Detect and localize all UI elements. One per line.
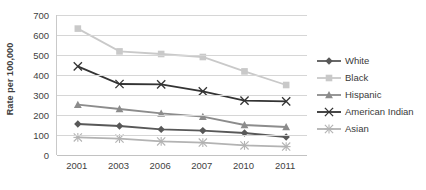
x-tick-label: 2007 <box>191 160 212 171</box>
data-point-asterisk <box>325 124 334 133</box>
legend-item-white[interactable]: White <box>316 52 422 69</box>
data-point-x <box>74 62 82 70</box>
gridline <box>57 75 307 76</box>
data-point-square <box>158 51 165 58</box>
data-point-asterisk <box>198 138 207 147</box>
data-point-square <box>116 48 123 55</box>
data-point-diamond <box>157 126 164 133</box>
x-tick-label: 2011 <box>275 160 295 171</box>
y-axis-title: Rate per 100,000 <box>2 0 18 158</box>
y-tick-label: 300 <box>33 90 49 101</box>
y-axis-tick-labels: 7006005004003002001000 <box>18 0 52 160</box>
series-american-indian <box>74 62 291 105</box>
series-line <box>78 29 286 85</box>
y-tick-label: 200 <box>33 110 49 121</box>
data-point-asterisk <box>240 141 249 150</box>
legend-label: Asian <box>345 124 369 134</box>
plot-area <box>56 15 307 155</box>
x-tick-label: 2001 <box>66 160 87 171</box>
legend-marker-diamond-icon <box>316 54 342 68</box>
x-axis-tick-labels: 200120032006200720102011 <box>56 160 306 176</box>
legend-marker-square-icon <box>316 71 342 85</box>
data-point-square <box>75 25 82 32</box>
legend-item-black[interactable]: Black <box>316 69 422 86</box>
y-tick-label: 0 <box>44 150 49 161</box>
series-layer <box>57 15 307 155</box>
gridline <box>57 95 307 96</box>
legend-label: Black <box>345 73 368 83</box>
gridline <box>57 135 307 136</box>
x-tick-label: 2006 <box>150 160 171 171</box>
gridline <box>57 35 307 36</box>
y-tick-label: 400 <box>33 70 49 81</box>
legend-label: Hispanic <box>345 90 381 100</box>
series-line <box>78 66 286 101</box>
data-point-square <box>326 74 333 81</box>
y-tick-label: 700 <box>33 10 49 21</box>
data-point-diamond <box>199 127 206 134</box>
data-point-diamond <box>116 122 123 129</box>
data-point-square <box>283 82 290 89</box>
chart-legend: WhiteBlackHispanicAmerican IndianAsian <box>316 52 422 137</box>
legend-marker-triangle-icon <box>316 88 342 102</box>
data-point-diamond <box>74 120 81 127</box>
legend-item-hispanic[interactable]: Hispanic <box>316 86 422 103</box>
line-chart: Rate per 100,000 7006005004003002001000 … <box>0 0 426 190</box>
legend-label: White <box>345 56 369 66</box>
gridline <box>57 15 307 16</box>
gridline <box>57 155 307 156</box>
y-tick-label: 100 <box>33 130 49 141</box>
x-tick-label: 2010 <box>233 160 254 171</box>
legend-item-american-indian[interactable]: American Indian <box>316 103 422 120</box>
x-tick-label: 2003 <box>108 160 129 171</box>
data-point-diamond <box>325 57 332 64</box>
y-axis-title-text: Rate per 100,000 <box>5 43 15 116</box>
legend-marker-x-icon <box>316 105 342 119</box>
data-point-asterisk <box>282 142 291 151</box>
gridline <box>57 115 307 116</box>
data-point-asterisk <box>157 137 166 146</box>
legend-marker-asterisk-icon <box>316 122 342 136</box>
legend-label: American Indian <box>345 107 414 117</box>
y-tick-label: 500 <box>33 50 49 61</box>
legend-item-asian[interactable]: Asian <box>316 120 422 137</box>
y-tick-label: 600 <box>33 30 49 41</box>
data-point-square <box>241 68 248 75</box>
gridline <box>57 55 307 56</box>
series-line <box>78 137 286 146</box>
